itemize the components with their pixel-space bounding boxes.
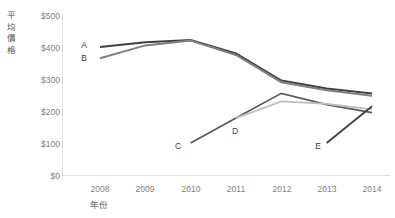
x-tick-label: 2011 (227, 184, 245, 194)
line-chart: 平 均 價 格 $500 $400 $300 $200 $100 $0 A B … (0, 0, 395, 218)
x-tick-label: 2012 (273, 184, 292, 194)
series-label-A: A (81, 40, 87, 50)
x-tick-label: 2010 (182, 184, 201, 194)
x-tick-label: 2008 (91, 184, 110, 194)
series-label-E: E (315, 141, 321, 151)
series-label-B: B (81, 53, 87, 63)
x-tick-label: 2014 (363, 184, 382, 194)
series-label-D: D (232, 126, 238, 136)
series-line-A (100, 40, 372, 93)
x-axis-title: 年份 (90, 198, 108, 210)
series-line-B (100, 41, 372, 96)
x-tick-label: 2013 (318, 184, 337, 194)
series-line-E (327, 106, 372, 143)
x-tick-label: 2009 (136, 184, 155, 194)
series-label-C: C (175, 141, 181, 151)
